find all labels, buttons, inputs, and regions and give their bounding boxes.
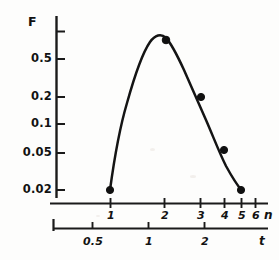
n-tick-label-3: 3 xyxy=(194,210,208,221)
t-tick-label-0-5: 0.5 xyxy=(78,236,108,247)
y-tick-label-0-02: 0.02 xyxy=(5,184,52,196)
n-axis-title: n xyxy=(264,209,273,221)
data-point-n3 xyxy=(197,93,204,100)
y-tick-label-0-05: 0.05 xyxy=(5,147,52,159)
figure-container: F 0.5 0.2 0.1 0.05 0.02 1 2 3 4 5 6 n 0.… xyxy=(0,0,279,260)
data-point-n1 xyxy=(106,186,113,193)
y-tick-label-0-2: 0.2 xyxy=(10,91,52,103)
n-tick-label-1: 1 xyxy=(104,210,118,221)
scan-speckle xyxy=(96,215,100,217)
t-tick-label-2: 2 xyxy=(198,236,212,247)
scan-speckle xyxy=(150,148,155,151)
t-axis-title: t xyxy=(259,235,265,247)
t-tick-label-1: 1 xyxy=(142,236,156,247)
scan-speckle xyxy=(190,175,196,178)
data-point-n5 xyxy=(237,186,244,193)
n-tick-label-5: 5 xyxy=(235,210,249,221)
y-axis-title: F xyxy=(28,16,37,29)
data-point-n2 xyxy=(162,36,170,44)
y-tick-label-0-5: 0.5 xyxy=(10,53,52,65)
n-tick-label-4: 4 xyxy=(218,210,232,221)
n-tick-label-6: 6 xyxy=(249,210,263,221)
y-tick-label-0-1: 0.1 xyxy=(10,118,52,130)
n-tick-label-2: 2 xyxy=(158,210,172,221)
data-point-n4 xyxy=(220,146,227,153)
data-curve xyxy=(110,35,242,191)
